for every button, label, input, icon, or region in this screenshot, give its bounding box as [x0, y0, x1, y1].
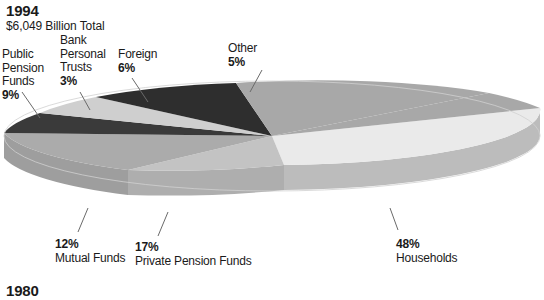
footer-year-title: 1980: [6, 282, 39, 299]
slice-label-foreign-pct: 6%: [118, 61, 135, 75]
slice-label-mutual-funds-name: Mutual Funds: [55, 251, 125, 265]
slice-label-private-pension: 17% Private Pension Funds: [135, 241, 252, 268]
slice-label-public-pension-name: Public Pension Funds: [2, 47, 44, 88]
leader-line-private-pension: [158, 212, 168, 236]
leader-line-mutual-funds: [78, 208, 88, 232]
slice-label-bank-trusts-pct: 3%: [60, 74, 77, 88]
slice-label-private-pension-pct: 17%: [135, 240, 158, 254]
slice-label-mutual-funds-pct: 12%: [55, 237, 78, 251]
pie-chart-figure: 1994 $6,049 Billion Total: [0, 0, 544, 300]
slice-label-households: 48% Households: [396, 238, 457, 265]
slice-label-households-name: Households: [396, 251, 457, 265]
slice-label-public-pension-pct: 9%: [2, 88, 19, 102]
slice-label-bank-trusts-name: Bank Personal Trusts: [60, 33, 106, 74]
slice-label-other-name: Other: [228, 41, 257, 55]
slice-label-households-pct: 48%: [396, 237, 419, 251]
slice-label-mutual-funds: 12% Mutual Funds: [55, 238, 125, 265]
slice-label-other: Other 5%: [228, 42, 284, 69]
slice-label-foreign: Foreign 6%: [118, 48, 174, 75]
leader-line-households: [390, 208, 398, 230]
slice-label-public-pension: Public Pension Funds 9%: [2, 48, 60, 102]
slice-label-bank-trusts: Bank Personal Trusts 3%: [60, 34, 118, 88]
slice-label-private-pension-name: Private Pension Funds: [135, 254, 252, 268]
slice-label-other-pct: 5%: [228, 55, 245, 69]
slice-label-foreign-name: Foreign: [118, 47, 157, 61]
